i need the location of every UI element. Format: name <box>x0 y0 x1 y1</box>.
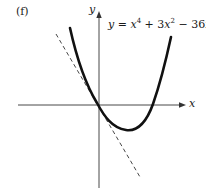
quartic-curve <box>70 28 171 130</box>
panel-label: (f) <box>16 5 29 18</box>
eq-op1: + 3 <box>141 18 164 31</box>
eq-equals: = <box>114 18 130 31</box>
x-axis-label: x <box>189 97 195 110</box>
x-axis-arrow-icon <box>179 102 186 107</box>
eq-op2: − 36 <box>175 18 205 31</box>
y-axis-label: y <box>89 3 95 16</box>
eq-term3-var: x <box>205 18 206 31</box>
equation-label: y = x4 + 3x2 − 36x <box>108 18 206 31</box>
y-axis-arrow-icon <box>96 11 101 18</box>
